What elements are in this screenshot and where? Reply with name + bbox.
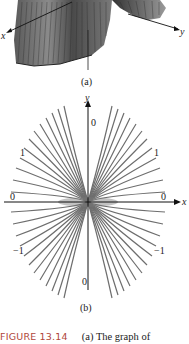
contour-label-left: 0 [10,192,15,202]
contour-label-lower-right: −1 [154,246,165,256]
contour-label-upper-right: 1 [154,148,159,158]
panel-a-label: (a) [81,77,92,87]
figure-caption: FIGURE 13.14 (a) The graph of [0,326,189,344]
contour-label-bottom: 0 [82,277,87,287]
contour-label-top: 0 [91,118,96,128]
contour-label-right: 0 [161,192,166,202]
panel-b-y-axis-label: y [85,93,89,103]
panel-a-y-axis-label: y [180,27,184,37]
caption-text: (a) The graph of [82,331,150,342]
contour-label-lower-left: −1 [13,246,24,256]
contour-label-upper-left: 1 [20,148,25,158]
panel-a-surface [0,0,189,70]
figure-number: FIGURE 13.14 [0,331,68,342]
panel-b-x-axis-label: x [182,197,186,207]
panel-b-label: (b) [80,303,92,313]
surface-plot-graphic [0,0,189,70]
panel-a-x-axis-label: x [1,31,5,41]
